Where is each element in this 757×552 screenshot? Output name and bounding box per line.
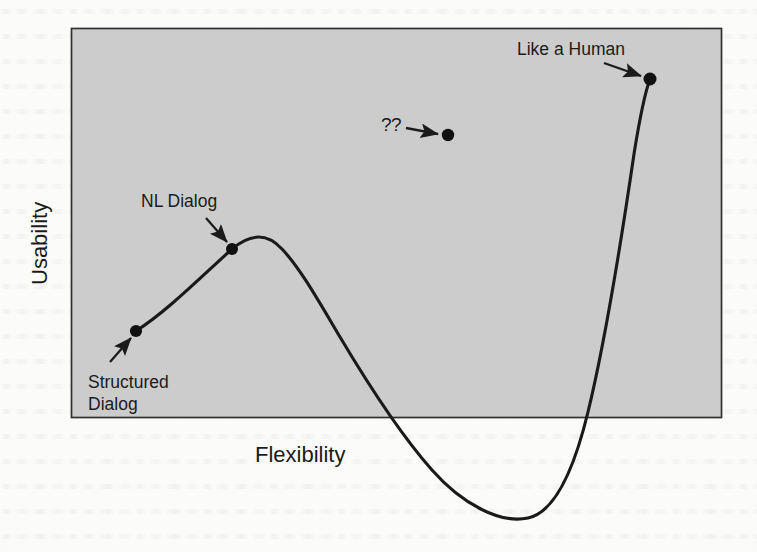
- usability-flexibility-figure: Like a Human ?? NL Dialog Structured Dia…: [0, 0, 757, 552]
- marker-nl-dialog[interactable]: [226, 243, 238, 255]
- y-axis-title: Usability: [27, 202, 52, 285]
- annotation-label-structured-dialog-line2: Dialog: [88, 394, 138, 414]
- marker-like-a-human[interactable]: [644, 73, 657, 86]
- marker-structured-dialog[interactable]: [130, 325, 142, 337]
- annotation-label-like-a-human: Like a Human: [517, 39, 625, 59]
- annotation-label-structured-dialog-line1: Structured: [88, 372, 169, 392]
- x-axis-title: Flexibility: [255, 442, 345, 467]
- annotation-label-nl-dialog: NL Dialog: [141, 191, 217, 211]
- marker-unknown[interactable]: [442, 129, 454, 141]
- annotation-label-unknown: ??: [381, 114, 401, 135]
